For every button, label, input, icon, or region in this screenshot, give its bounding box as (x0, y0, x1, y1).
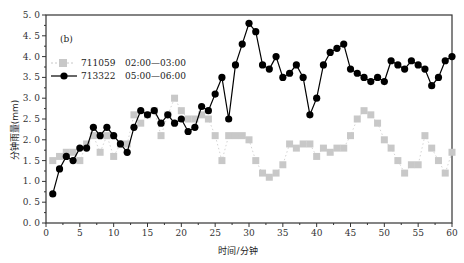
x-tick-label: 60 (446, 228, 458, 238)
data-point-circle (157, 120, 164, 127)
data-point-circle (232, 61, 239, 68)
data-point-circle (360, 74, 367, 81)
x-tick-label: 35 (277, 228, 289, 238)
data-point-circle (110, 132, 117, 139)
legend: 711059 02:00—03:00 713322 05:00—06:00 (51, 58, 186, 81)
y-tick-label: 1. 5 (23, 156, 40, 166)
data-point-square (347, 132, 354, 139)
x-tick-label: 50 (379, 228, 391, 238)
x-tick-label: 55 (412, 228, 424, 238)
data-point-square (246, 136, 253, 143)
data-point-square (333, 145, 340, 152)
series-line-713322 (53, 23, 452, 194)
data-point-square (313, 153, 320, 160)
data-point-square (49, 157, 56, 164)
data-point-circle (428, 82, 435, 89)
data-point-square (259, 170, 266, 177)
x-tick-label: 30 (243, 228, 255, 238)
data-point-circle (63, 153, 70, 160)
data-point-square (449, 149, 456, 156)
data-point-circle (374, 74, 381, 81)
data-point-square (97, 149, 104, 156)
data-point-square (306, 140, 313, 147)
legend-name-711059: 711059 (81, 58, 116, 68)
data-point-circle (124, 149, 131, 156)
x-tick-label: 45 (345, 228, 357, 238)
data-point-circle (130, 124, 137, 131)
data-point-circle (381, 78, 388, 85)
series-713322 (49, 20, 455, 198)
x-tick-label: 20 (176, 228, 188, 238)
panel-label: (b) (60, 34, 73, 44)
data-point-circle (191, 124, 198, 131)
data-point-square (158, 132, 165, 139)
data-point-circle (137, 107, 144, 114)
data-point-circle (259, 61, 266, 68)
data-point-circle (49, 190, 56, 197)
data-point-circle (103, 124, 110, 131)
data-point-square (171, 95, 178, 102)
data-point-circle (97, 132, 104, 139)
x-axis: 051015202530354045505560 (43, 223, 458, 238)
data-point-circle (205, 107, 212, 114)
data-point-circle (354, 70, 361, 77)
data-point-circle (117, 140, 124, 147)
data-point-square (320, 145, 327, 152)
data-point-square (293, 145, 300, 152)
data-point-circle (178, 115, 185, 122)
data-point-circle (171, 120, 178, 127)
data-point-square (279, 161, 286, 168)
data-point-square (388, 145, 395, 152)
data-point-square (421, 132, 428, 139)
data-point-circle (347, 65, 354, 72)
y-tick-label: 3. 0 (23, 93, 40, 103)
data-point-circle (225, 115, 232, 122)
data-point-circle (266, 65, 273, 72)
data-point-square (435, 157, 442, 164)
data-point-square (415, 161, 422, 168)
plot-frame (46, 15, 452, 223)
plot-border (46, 15, 452, 223)
data-point-circle (448, 53, 455, 60)
data-point-circle (76, 145, 83, 152)
data-point-square (130, 111, 137, 118)
data-point-circle (279, 74, 286, 81)
circle-marker-icon (60, 72, 67, 79)
data-point-circle (56, 165, 63, 172)
data-point-circle (333, 45, 340, 52)
data-point-circle (401, 65, 408, 72)
data-point-square (340, 145, 347, 152)
data-point-square (70, 149, 77, 156)
data-point-circle (327, 49, 334, 56)
data-point-circle (421, 65, 428, 72)
data-point-circle (239, 41, 246, 48)
data-point-circle (185, 128, 192, 135)
data-point-square (300, 140, 307, 147)
data-point-square (225, 132, 232, 139)
data-point-circle (144, 111, 151, 118)
data-point-square (266, 174, 273, 181)
data-point-circle (415, 61, 422, 68)
data-point-circle (83, 145, 90, 152)
y-tick-label: 2. 5 (23, 114, 40, 124)
data-point-square (442, 170, 449, 177)
data-point-circle (90, 124, 97, 131)
data-point-square (178, 107, 185, 114)
x-tick-label: 25 (209, 228, 221, 238)
data-point-circle (252, 28, 259, 35)
data-point-circle (245, 20, 252, 27)
data-point-circle (293, 61, 300, 68)
data-point-square (374, 120, 381, 127)
data-point-square (218, 157, 225, 164)
y-tick-label: 4. 5 (23, 31, 40, 41)
legend-item-713322: 713322 05:00—06:00 (51, 71, 186, 81)
y-tick-label: 2. 0 (23, 135, 40, 145)
y-tick-label: 4. 0 (23, 52, 40, 62)
data-point-square (56, 153, 63, 160)
x-tick-label: 0 (43, 228, 49, 238)
x-tick-label: 10 (108, 228, 120, 238)
y-axis-title: 分钟雨量(mm) (9, 100, 20, 161)
x-tick-label: 40 (311, 228, 323, 238)
legend-name-713322: 713322 (81, 71, 115, 81)
legend-item-711059: 711059 02:00—03:00 (51, 58, 186, 68)
